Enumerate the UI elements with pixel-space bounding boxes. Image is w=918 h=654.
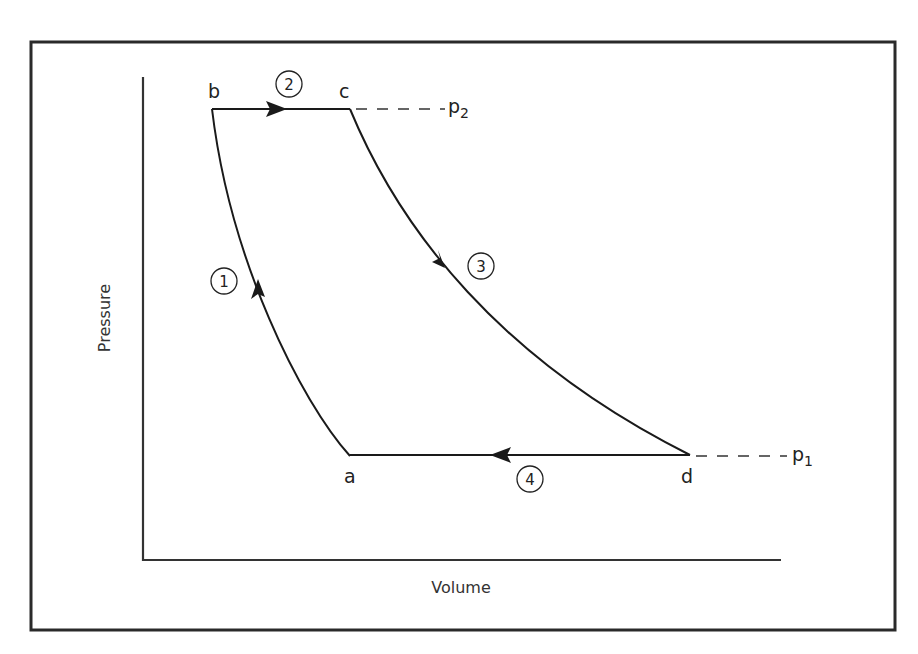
process-3-curve (350, 109, 690, 455)
x-axis-label: Volume (431, 578, 491, 597)
svg-text:4: 4 (525, 471, 535, 489)
step-marker-3: 3 (468, 253, 494, 279)
pv-cycle-diagram: Pressure Volume b c a d p2 p1 1 2 3 4 (0, 0, 918, 654)
svg-text:3: 3 (476, 258, 486, 276)
figure-frame (31, 42, 895, 630)
point-label-c: c (339, 80, 349, 102)
y-axis-label: Pressure (95, 284, 114, 352)
process-1-curve (212, 109, 350, 456)
svg-text:2: 2 (284, 76, 294, 94)
point-label-a: a (344, 465, 356, 487)
point-label-d: d (681, 465, 693, 487)
axes (143, 77, 781, 560)
pressure-label-p2: p2 (448, 95, 469, 121)
svg-text:1: 1 (219, 273, 229, 291)
pressure-label-p1: p1 (792, 443, 813, 469)
step-marker-2: 2 (276, 71, 302, 97)
step-marker-1: 1 (211, 268, 237, 294)
arrow-up-icon (251, 279, 265, 299)
step-marker-4: 4 (517, 466, 543, 492)
point-label-b: b (208, 80, 220, 102)
